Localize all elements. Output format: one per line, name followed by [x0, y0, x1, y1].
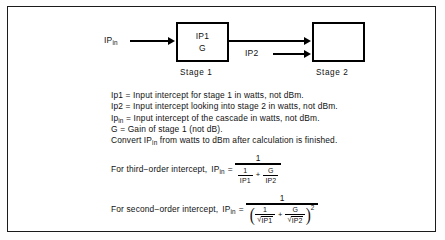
input-arrow-shaft [130, 40, 169, 42]
definition-gain: G = Gain of stage 1 (not dB). [111, 124, 338, 135]
stage1-caption: Stage 1 [180, 68, 212, 77]
third-order-term2: G IP2 [263, 167, 278, 184]
second-order-term1-num: 1 [261, 206, 269, 213]
third-order-term2-num: G [266, 167, 276, 174]
interstage-arrow-shaft [229, 40, 305, 42]
definition-ip1: Ip1 = Input intercept for stage 1 in wat… [111, 90, 338, 101]
interstage-arrow-head-icon [304, 37, 311, 45]
ip2-arrow-head-icon [304, 50, 311, 58]
stage2-caption: Stage 2 [316, 68, 348, 77]
input-arrow-head-icon [168, 37, 175, 45]
second-order-equals: = [236, 204, 246, 214]
second-order-exponent: 2 [311, 205, 315, 211]
stage1-ip1-label: IP1 [196, 30, 209, 42]
third-order-lead: For third−order intercept, [111, 164, 207, 174]
second-order-term1-radical: √IP1 [257, 216, 273, 225]
definition-convert-sub: in [152, 139, 157, 146]
third-order-lhs-sub: in [220, 168, 225, 175]
stage1-block: IP1 G [176, 22, 229, 62]
second-order-denominator-expr: 1 √IP1 + G √IP2 [255, 206, 305, 225]
input-intercept-label: IPin [104, 35, 118, 45]
third-order-equals: = [225, 164, 235, 174]
second-order-plus: + [277, 211, 284, 219]
third-order-plus: + [255, 171, 262, 179]
second-order-formula: For second−order intercept, IPin = 1 ( 1… [111, 194, 318, 224]
second-order-paren-group: ( 1 √IP1 + G √IP2 [249, 206, 316, 225]
definitions-block: Ip1 = Input intercept for stage 1 in wat… [111, 90, 338, 146]
definition-ip2: Ip2 = Input intercept looking into stage… [111, 101, 338, 112]
definition-ipin: Ipin = Input intercept of the cascade in… [111, 113, 338, 124]
third-order-formula: For third−order intercept, IPin = 1 1 IP… [111, 154, 281, 184]
ip2-label: IP2 [245, 48, 258, 58]
second-order-lead: For second−order intercept, [111, 204, 218, 214]
definition-ipin-sub: in [118, 117, 123, 124]
second-order-lhs-sub: in [230, 208, 235, 215]
figure-frame: IPin IP1 G Stage 1 IP2 Stage 2 Ip1 = Inp… [7, 6, 436, 232]
third-order-term1-den: IP1 [238, 177, 253, 184]
definition-convert: Convert IPin from watts to dBm after cal… [111, 135, 338, 146]
definition-convert-post: from watts to dBm after calculation is f… [157, 135, 337, 145]
second-order-fraction: 1 ( 1 √IP1 + G [246, 194, 319, 224]
input-intercept-label-sub: in [112, 39, 117, 46]
screenshot-root: IPin IP1 G Stage 1 IP2 Stage 2 Ip1 = Inp… [0, 0, 445, 240]
second-order-term1: 1 √IP1 [255, 206, 275, 225]
third-order-numerator: 1 [253, 154, 264, 162]
third-order-term2-bar [263, 175, 278, 176]
second-order-term2-num: G [291, 206, 301, 213]
stage1-gain-label: G [199, 42, 206, 54]
second-order-term2-radicand: IP2 [291, 216, 303, 225]
third-order-term1: 1 IP1 [238, 167, 253, 184]
second-order-term2: G √IP2 [285, 206, 305, 225]
definition-ipin-post: = Input intercept of the cascade in watt… [124, 113, 320, 123]
third-order-fraction: 1 1 IP1 + G IP2 [235, 154, 282, 184]
third-order-fraction-bar [235, 163, 282, 164]
second-order-denominator: ( 1 √IP1 + G √IP2 [246, 206, 319, 225]
definition-convert-pre: Convert IP [111, 135, 152, 145]
second-order-term1-den: √IP1 [255, 216, 275, 225]
third-order-lhs-base: IP [211, 164, 219, 174]
ip2-arrow-shaft [273, 53, 305, 55]
second-order-lhs: IPin [218, 204, 236, 214]
block-diagram: IPin IP1 G Stage 1 IP2 Stage 2 [8, 7, 437, 85]
third-order-term1-bar [238, 175, 253, 176]
third-order-denominator: 1 IP1 + G IP2 [235, 166, 282, 184]
second-order-numerator: 1 [277, 194, 288, 202]
second-order-term1-radicand: IP1 [261, 216, 273, 225]
second-order-term2-radical: √IP2 [287, 216, 303, 225]
third-order-denominator-expr: 1 IP1 + G IP2 [238, 167, 279, 184]
second-order-term2-den: √IP2 [285, 216, 305, 225]
third-order-lhs: IPin [207, 164, 225, 174]
third-order-term1-num: 1 [241, 167, 249, 174]
stage2-block [312, 22, 365, 62]
third-order-term2-den: IP2 [263, 177, 278, 184]
second-order-paren-open: ( [249, 208, 254, 222]
